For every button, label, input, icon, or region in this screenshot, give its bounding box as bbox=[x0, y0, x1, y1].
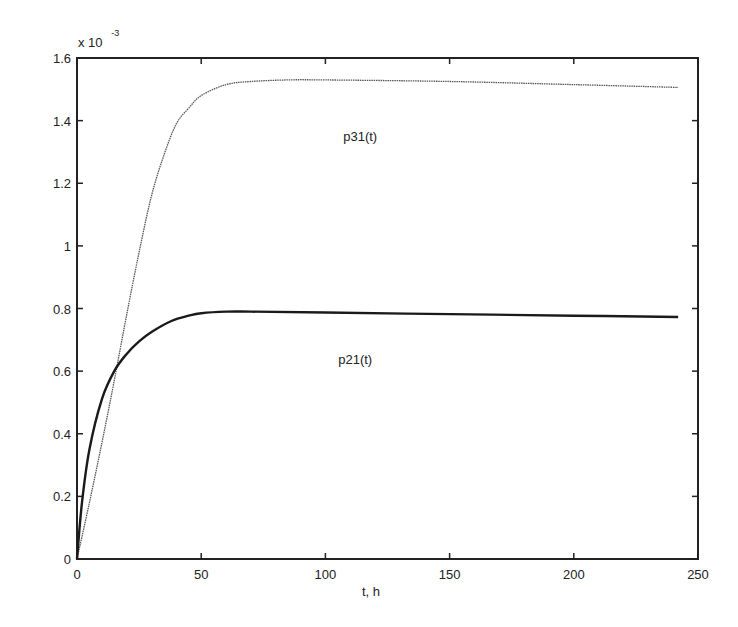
x-tick-label: 150 bbox=[439, 567, 461, 582]
plot-frame bbox=[77, 58, 698, 559]
x-tick-label: 250 bbox=[687, 567, 709, 582]
curve-annotation: p21(t) bbox=[338, 352, 372, 367]
plot-series bbox=[77, 80, 678, 559]
y-tick-label: 1.4 bbox=[53, 114, 71, 129]
y-multiplier: x 10 -3 bbox=[78, 34, 119, 50]
x-tick-label: 0 bbox=[73, 567, 80, 582]
x-tick-label: 100 bbox=[315, 567, 337, 582]
y-tick-label: 0.6 bbox=[53, 364, 71, 379]
y-multiplier-base: x 10 bbox=[78, 35, 103, 50]
plot-axes bbox=[77, 58, 698, 559]
y-tick-label: 1.6 bbox=[53, 51, 71, 66]
line-chart: 05010015020025000.20.40.60.811.21.41.6p3… bbox=[0, 0, 738, 627]
y-tick-label: 0.8 bbox=[53, 302, 71, 317]
series-line-p21t bbox=[77, 311, 678, 559]
x-tick-label: 50 bbox=[194, 567, 208, 582]
y-tick-label: 1 bbox=[64, 239, 71, 254]
y-tick-label: 0 bbox=[64, 552, 71, 567]
curve-annotation: p31(t) bbox=[343, 129, 377, 144]
x-axis-label: t, h bbox=[362, 584, 380, 599]
x-tick-label: 200 bbox=[563, 567, 585, 582]
y-tick-label: 0.2 bbox=[53, 489, 71, 504]
y-multiplier-exponent: -3 bbox=[111, 28, 119, 38]
y-tick-label: 0.4 bbox=[53, 427, 71, 442]
y-tick-label: 1.2 bbox=[53, 176, 71, 191]
series-line-p31t bbox=[77, 80, 678, 559]
